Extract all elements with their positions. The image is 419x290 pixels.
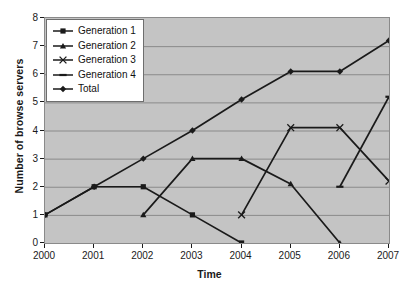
y-tick-label: 4 (8, 124, 38, 135)
data-point-marker (59, 74, 66, 76)
data-point-marker (60, 29, 65, 34)
legend-marker-x-icon (52, 54, 74, 66)
y-tick-label: 5 (8, 96, 38, 107)
legend-item-1[interactable]: Generation 1 (52, 24, 136, 39)
y-tick-label: 7 (8, 40, 38, 51)
legend-label: Total (78, 84, 99, 94)
series-4 (336, 96, 389, 188)
data-point-marker (190, 212, 195, 217)
series-2 (140, 156, 343, 243)
y-tick-label: 3 (8, 152, 38, 163)
legend-label: Generation 3 (78, 55, 136, 65)
data-point-marker (141, 184, 146, 189)
x-tick-mark (44, 244, 45, 248)
x-tick-mark (388, 244, 389, 248)
x-tick-mark (241, 244, 242, 248)
y-tick-label: 0 (8, 237, 38, 248)
data-point-marker (239, 240, 244, 243)
data-point-marker (385, 96, 389, 98)
legend-marker-square-icon (52, 25, 74, 37)
x-tick-mark (142, 244, 143, 248)
legend-label: Generation 1 (78, 26, 136, 36)
legend-label: Generation 4 (78, 70, 136, 80)
y-tick-label: 8 (8, 12, 38, 23)
y-axis-tick-labels: 012345678 (8, 0, 38, 290)
y-tick-label: 2 (8, 180, 38, 191)
x-tick-label: 2007 (358, 250, 418, 261)
y-tick-label: 1 (8, 208, 38, 219)
data-point-marker (60, 86, 66, 92)
legend-label: Generation 2 (78, 41, 136, 51)
legend-item-3[interactable]: Generation 3 (52, 53, 136, 68)
legend-item-4[interactable]: Generation 4 (52, 68, 136, 83)
legend-item-5[interactable]: Total (52, 82, 136, 97)
line-chart-figure: Number of browse servers Time 012345678 … (0, 0, 419, 290)
x-tick-mark (290, 244, 291, 248)
chart-legend: Generation 1Generation 2Generation 3Gene… (46, 19, 144, 102)
x-tick-mark (93, 244, 94, 248)
y-tick-label: 6 (8, 68, 38, 79)
x-tick-mark (191, 244, 192, 248)
data-point-marker (336, 186, 343, 188)
legend-marker-diamond-icon (52, 83, 74, 95)
series-line (143, 159, 340, 243)
x-axis-tick-labels: 20002001200220032004200520062007 (0, 250, 419, 270)
legend-item-2[interactable]: Generation 2 (52, 39, 136, 54)
x-tick-mark (339, 244, 340, 248)
legend-marker-triangle-icon (52, 40, 74, 52)
series-line (242, 128, 389, 215)
legend-marker-dash-icon (52, 69, 74, 81)
